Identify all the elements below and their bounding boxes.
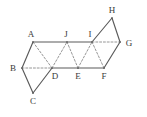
vertex-dot-group: [21, 17, 121, 94]
vertex-dot-H: [111, 17, 113, 19]
edge-DJ: [52, 42, 67, 68]
vertex-label-F: F: [101, 72, 106, 81]
vertex-label-D: D: [52, 72, 59, 81]
geometric-net-figure: ABCDEFGHIJ: [0, 0, 147, 117]
edge-IH: [92, 18, 112, 42]
vertex-dot-G: [119, 41, 121, 43]
vertex-label-B: B: [10, 64, 16, 73]
vertex-dot-I: [91, 41, 93, 43]
edge-HG: [112, 18, 120, 42]
net-diagram-svg: [0, 0, 147, 117]
vertex-dot-A: [32, 41, 34, 43]
vertex-label-E: E: [75, 72, 81, 81]
edge-CB: [22, 68, 33, 93]
vertex-label-J: J: [64, 30, 68, 39]
edge-EI: [78, 42, 92, 68]
vertex-label-G: G: [126, 39, 133, 48]
vertex-dot-F: [103, 67, 105, 69]
edge-DC: [33, 68, 52, 93]
edge-GF: [104, 42, 120, 68]
vertex-label-C: C: [30, 97, 36, 106]
dashed-edge-group: [22, 42, 120, 68]
vertex-label-I: I: [89, 30, 92, 39]
edge-AD: [33, 42, 52, 68]
edge-JE: [67, 42, 78, 68]
vertex-dot-J: [66, 41, 68, 43]
vertex-dot-E: [77, 67, 79, 69]
solid-edge-group: [22, 18, 120, 93]
vertex-dot-B: [21, 67, 23, 69]
edge-IF: [92, 42, 104, 68]
vertex-label-A: A: [28, 30, 35, 39]
vertex-dot-C: [32, 92, 34, 94]
vertex-dot-D: [51, 67, 53, 69]
vertex-label-H: H: [109, 6, 116, 15]
edge-BA: [22, 42, 33, 68]
